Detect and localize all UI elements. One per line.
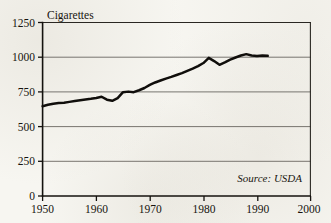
cigarettes-line-chart: 1250 1000 750 500 250 0 1950 1960 1970 1… [0, 0, 331, 223]
x-label-2000: 2000 [298, 203, 321, 215]
chart-title: Cigarettes [47, 9, 94, 22]
x-label-1980: 1980 [193, 203, 216, 215]
figure-canvas: 1250 1000 750 500 250 0 1950 1960 1970 1… [0, 0, 331, 223]
x-label-1990: 1990 [246, 203, 269, 215]
y-label-250: 250 [18, 155, 36, 167]
y-label-0: 0 [29, 190, 35, 202]
x-label-1960: 1960 [85, 203, 108, 215]
y-label-750: 750 [18, 86, 36, 98]
y-axis-labels: 1250 1000 750 500 250 0 [12, 17, 35, 203]
y-label-1250: 1250 [12, 17, 35, 29]
y-label-500: 500 [18, 121, 36, 133]
x-label-1970: 1970 [139, 203, 162, 215]
x-axis-labels: 1950 1960 1970 1980 1990 2000 [31, 203, 321, 215]
y-label-1000: 1000 [12, 51, 35, 63]
gridlines [42, 57, 311, 161]
data-series-cigarettes-per-capita [43, 54, 268, 106]
plot-frame [42, 22, 311, 197]
source-annotation: Source: USDA [237, 172, 302, 184]
x-label-1950: 1950 [31, 203, 54, 215]
